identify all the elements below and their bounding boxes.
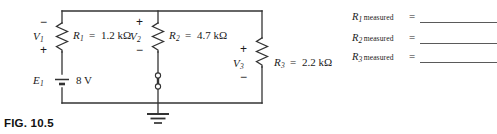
r3-value: 2.2 kΩ: [302, 57, 332, 68]
v3-label: V3: [233, 58, 244, 71]
e1-label: E1: [33, 75, 44, 88]
resistor-r2-symbol: [153, 23, 164, 52]
v2-polarity-top: +: [136, 16, 143, 28]
break-terminals-symbol: [155, 73, 160, 89]
measurement-blank-r3[interactable]: [420, 62, 497, 63]
v3-polarity-top: +: [240, 43, 247, 55]
measurement-label-r2: R2measured: [352, 32, 394, 45]
measurement-equals-r3: =: [409, 50, 415, 62]
v1-label: V1: [33, 31, 44, 44]
r1-equals: =: [89, 30, 95, 41]
resistor-r3-symbol: [257, 38, 268, 67]
v1-polarity-bottom: +: [40, 44, 47, 56]
measurement-blank-r2[interactable]: [420, 43, 497, 44]
v3-polarity-bottom: −: [240, 71, 247, 83]
v1-polarity-top: −: [40, 16, 47, 28]
measurement-label-r1: R1measured: [352, 11, 394, 24]
battery-e1-symbol: [55, 80, 69, 85]
r3-label: R3: [274, 57, 285, 70]
figure-caption: FIG. 10.5: [4, 117, 54, 129]
r2-label: R2: [169, 30, 180, 43]
r1-label: R1: [73, 30, 84, 43]
v2-label: V2: [130, 31, 141, 44]
measurement-label-r3: R3measured: [352, 51, 394, 64]
measurement-blank-r1[interactable]: [420, 22, 497, 23]
r2-value: 4.7 kΩ: [197, 30, 227, 41]
measurement-equals-r2: =: [409, 31, 415, 43]
v2-polarity-bottom: −: [136, 44, 143, 56]
ground-icon: [147, 114, 169, 123]
measurement-equals-r1: =: [409, 10, 415, 22]
resistor-r1-symbol: [57, 23, 68, 52]
r2-equals: =: [185, 30, 191, 41]
r3-equals: =: [290, 57, 296, 68]
e1-value: 8 V: [76, 75, 92, 86]
r1-value: 1.2 kΩ: [101, 30, 131, 41]
